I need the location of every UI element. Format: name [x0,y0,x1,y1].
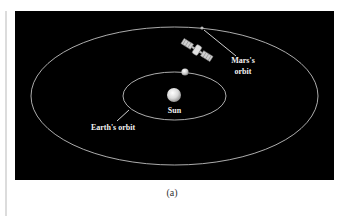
mars [200,26,203,29]
mars-orbit-label-line1: Mars's [231,56,255,65]
orbit-diagram: Sun Earth's orbit Mars's orbit [0,0,344,216]
earth-orbit-label: Earth's orbit [91,123,136,132]
mars-orbit-label-line2: orbit [235,67,252,76]
sun-label: Sun [168,106,182,115]
figure-caption: (a) [0,187,344,198]
sun [167,88,181,102]
earth [181,68,188,75]
